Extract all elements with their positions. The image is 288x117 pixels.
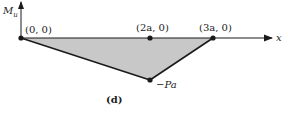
label-origin: (0, 0) <box>25 24 52 35</box>
y-axis-label: Mu <box>2 5 18 19</box>
caption: (d) <box>106 94 122 105</box>
point-min <box>147 77 152 82</box>
moment-diagram: Mu x (0, 0) (2a, 0) (3a, 0) −Pa (d) <box>0 0 288 117</box>
point-origin <box>18 35 23 40</box>
x-axis-label: x <box>276 32 282 43</box>
point-3a <box>210 35 215 40</box>
moment-area-fill <box>21 38 213 80</box>
point-2a <box>147 35 152 40</box>
label-2a: (2a, 0) <box>136 22 169 33</box>
label-min: −Pa <box>156 79 177 90</box>
label-3a: (3a, 0) <box>199 22 232 33</box>
